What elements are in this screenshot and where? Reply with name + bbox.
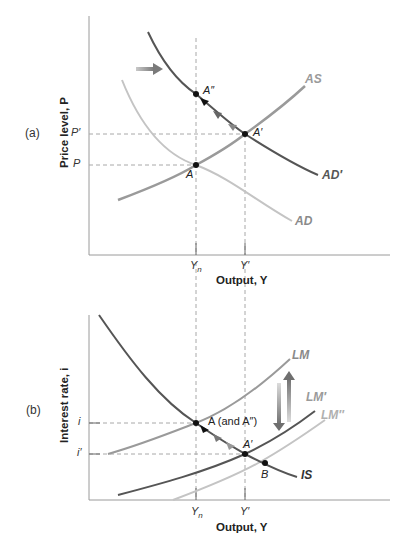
label-b-a-prime: A′ bbox=[243, 438, 252, 450]
is-curve bbox=[99, 315, 297, 477]
label-b-a: A (and A″) bbox=[208, 415, 257, 427]
lm-shift-down-arrow-icon bbox=[273, 383, 285, 431]
panel-a-x-axis-title: Output, Y bbox=[216, 274, 268, 286]
panel-b-tag: (b) bbox=[26, 403, 41, 417]
is-adjust-arrow-icon-2 bbox=[213, 434, 222, 442]
point-a-prime bbox=[242, 131, 248, 137]
ad-label: AD bbox=[295, 214, 312, 228]
label-a-double-prime: A″ bbox=[203, 84, 214, 96]
panel-a-tick-yn: Yn bbox=[190, 259, 202, 274]
panel-b-tick-yn: Yn bbox=[191, 505, 203, 520]
panel-a-tag: (a) bbox=[25, 126, 40, 140]
ad-prime-label: AD′ bbox=[322, 168, 342, 182]
ad-shift-arrow-icon bbox=[136, 63, 163, 75]
label-a-prime: A′ bbox=[253, 126, 262, 138]
lm-label: LM bbox=[292, 348, 309, 362]
panel-a-tick-p: P bbox=[73, 157, 80, 169]
lm-double-prime-label: LM″ bbox=[321, 408, 344, 422]
panel-b-tick-iprime: i′ bbox=[77, 446, 82, 458]
panel-b-tick-i: i bbox=[78, 415, 80, 427]
is-label: IS bbox=[301, 468, 312, 482]
lm-curve bbox=[108, 359, 290, 454]
panel-b-y-axis-title: Interest rate, i bbox=[58, 368, 70, 443]
lm-prime-label: LM′ bbox=[306, 390, 326, 404]
panel-b-tick-yprime: Y′ bbox=[240, 505, 249, 517]
as-curve bbox=[118, 86, 305, 200]
panel-b-x-axis-title: Output, Y bbox=[216, 521, 268, 533]
point-b-b bbox=[262, 460, 268, 466]
point-a bbox=[193, 162, 199, 168]
point-b-a bbox=[193, 420, 199, 426]
lm-shift-up-arrow-icon bbox=[283, 371, 295, 422]
panel-a-y-axis-title: Price level, P bbox=[58, 97, 70, 168]
point-a-double-prime bbox=[193, 91, 199, 97]
as-label: AS bbox=[305, 72, 322, 86]
is-adjust-arrow-icon-1 bbox=[226, 442, 235, 450]
adjust-arrow-icon-2 bbox=[213, 111, 222, 119]
point-b-a-prime bbox=[242, 451, 248, 457]
panel-a-tick-yprime: Y′ bbox=[240, 259, 249, 271]
panel-a-tick-pprime: P′ bbox=[71, 126, 80, 138]
label-a: A bbox=[186, 168, 193, 180]
label-b-b: B bbox=[261, 468, 268, 480]
panel-a-graph bbox=[89, 16, 390, 255]
panel-b-graph bbox=[89, 262, 390, 500]
